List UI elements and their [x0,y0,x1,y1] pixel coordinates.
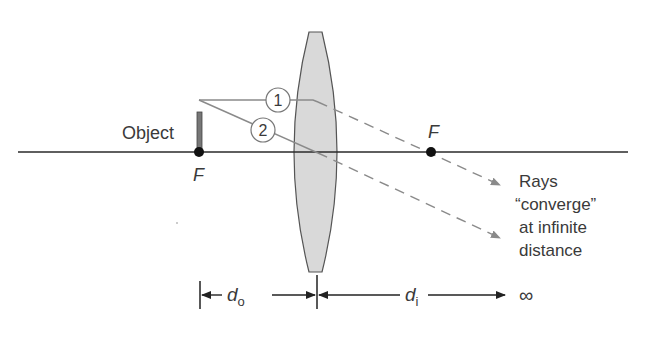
focal-point-right [426,147,436,157]
caption-line-4: distance [519,241,582,260]
focal-label-right: F [428,122,440,142]
optics-diagram: 1 2 Object F F Rays “converge” at infini… [0,0,650,345]
object-label: Object [122,123,174,143]
stray-mark [176,222,178,224]
caption-line-1: Rays [519,172,558,191]
ray-2-dashed [318,153,500,238]
object-arrow [197,112,202,152]
focal-point-left [194,147,204,157]
infinity-symbol: ∞ [519,284,533,306]
focal-label-left: F [193,165,205,185]
ray-1-dashed [318,102,500,185]
ray-2-number: 2 [259,122,268,139]
di-label: di [405,284,419,309]
ray-1-number: 1 [274,92,283,109]
caption-line-2: “converge” [515,195,597,214]
do-label: do [227,284,245,309]
caption-line-3: at infinite [519,218,587,237]
